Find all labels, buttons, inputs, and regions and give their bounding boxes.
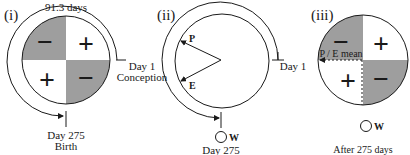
p-label: P: [189, 33, 195, 44]
sign-top-left: −: [37, 26, 53, 57]
e-label: E: [189, 80, 196, 91]
pe-mean-label: P / E mean: [319, 48, 362, 59]
w-circle-icon: [216, 132, 227, 143]
panel-label: (iii): [311, 7, 334, 24]
p-vector: [181, 41, 221, 60]
end-marker-line1: Day 275: [202, 144, 240, 155]
sign-bottom-right: −: [373, 63, 389, 94]
sign-top-right: +: [78, 28, 94, 59]
panel-label: (ii): [157, 7, 175, 24]
panel-i: (i) − + + − 91.3 days Day 1 Conception D…: [4, 1, 168, 152]
arc-label: 91.3 days: [45, 1, 87, 13]
start-marker-line2: Conception: [117, 71, 168, 83]
e-vector: [181, 60, 221, 81]
diagram-canvas: (i) − + + − 91.3 days Day 1 Conception D…: [0, 0, 410, 155]
sign-bottom-left: +: [39, 64, 55, 95]
sign-bottom-left: +: [340, 65, 356, 96]
panel-label: (i): [4, 7, 18, 24]
panel-iii: (iii) − + + − P / E mean W After 275 day…: [311, 7, 408, 155]
quadrant-disc: [22, 16, 110, 104]
end-marker-line2: Birth: [55, 140, 78, 152]
w-label: W: [374, 121, 384, 132]
inner-circle: [175, 14, 269, 108]
w-label: W: [229, 132, 239, 143]
w-circle-icon: [361, 121, 372, 132]
start-marker-line1: Day 1: [280, 60, 307, 72]
panel-ii: (ii) P E Day 1 W Day 275: [157, 2, 306, 155]
sign-bottom-right: −: [78, 62, 94, 93]
sign-top-right: +: [373, 28, 389, 59]
caption: After 275 days: [333, 144, 393, 155]
quadrant-disc: [318, 15, 408, 105]
